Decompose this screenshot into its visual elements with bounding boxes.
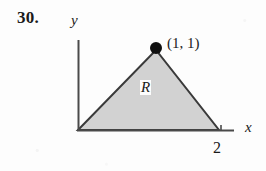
region-label-R: R [140,80,151,95]
apex-point-label: (1, 1) [167,36,200,51]
x-axis-label: x [245,120,252,135]
y-axis-label: y [71,13,78,28]
triangle-plot [0,0,266,171]
figure-container: 30. y x R (1, 1) 2 [0,0,266,171]
x-tick-label-2: 2 [213,140,221,156]
apex-point-marker [150,42,162,54]
